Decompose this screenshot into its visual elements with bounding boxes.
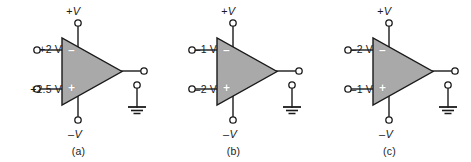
noninverting-input-label: –1 V bbox=[351, 84, 373, 95]
output-terminal[interactable] bbox=[296, 68, 302, 74]
inverting-input-sign: – bbox=[68, 44, 75, 56]
circuit-c: – + +V –V –2 V –1 V (c) bbox=[311, 0, 468, 162]
supply-positive-terminal[interactable] bbox=[230, 20, 236, 26]
supply-positive-terminal[interactable] bbox=[75, 20, 81, 26]
noninverting-input-label: +2.5 V bbox=[30, 84, 62, 95]
noninverting-input-sign: + bbox=[379, 82, 386, 94]
ground-terminal[interactable] bbox=[445, 82, 451, 88]
supply-negative-label: –V bbox=[379, 129, 393, 140]
ground-icon bbox=[439, 107, 457, 114]
output-terminal[interactable] bbox=[141, 68, 147, 74]
circuit-caption: (a) bbox=[0, 146, 157, 157]
inverting-input-sign: – bbox=[223, 44, 230, 56]
op-amp-comparator-figure: – + +V –V +2 V +2.5 V (a) bbox=[0, 0, 471, 162]
circuit-b: – + +V –V –1 V –2 V (b) bbox=[155, 0, 312, 162]
output-terminal[interactable] bbox=[452, 68, 458, 74]
supply-negative-label: –V bbox=[68, 129, 82, 140]
ground-terminal[interactable] bbox=[134, 82, 140, 88]
ground-terminal[interactable] bbox=[289, 82, 295, 88]
supply-negative-label: –V bbox=[223, 129, 237, 140]
supply-positive-label: +V bbox=[221, 6, 235, 17]
inverting-input-label: –2 V bbox=[351, 44, 373, 55]
circuit-caption: (c) bbox=[311, 146, 468, 157]
circuit-a: – + +V –V +2 V +2.5 V (a) bbox=[0, 0, 157, 162]
supply-positive-label: +V bbox=[66, 6, 80, 17]
inverting-input-label: –1 V bbox=[195, 44, 217, 55]
supply-positive-label: +V bbox=[377, 6, 391, 17]
supply-negative-terminal[interactable] bbox=[386, 117, 392, 123]
supply-negative-terminal[interactable] bbox=[230, 117, 236, 123]
noninverting-input-sign: + bbox=[68, 82, 75, 94]
noninverting-input-label: –2 V bbox=[195, 84, 217, 95]
noninverting-input-sign: + bbox=[223, 82, 230, 94]
circuit-caption: (b) bbox=[155, 146, 312, 157]
inverting-input-label: +2 V bbox=[39, 44, 62, 55]
ground-icon bbox=[283, 107, 301, 114]
supply-negative-terminal[interactable] bbox=[75, 117, 81, 123]
inverting-input-sign: – bbox=[379, 44, 386, 56]
ground-icon bbox=[128, 107, 146, 114]
supply-positive-terminal[interactable] bbox=[386, 20, 392, 26]
